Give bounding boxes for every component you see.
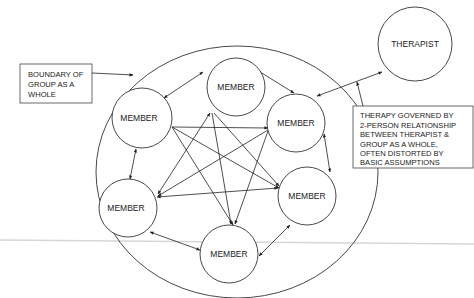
member-label: MEMBER	[217, 82, 254, 92]
group-diagram: BOUNDARY OF GROUP AS A WHOLE THERAPIST T…	[0, 0, 474, 298]
therapy-label-line-1: THERAPY GOVERNED BY	[360, 111, 454, 120]
therapist-node: THERAPIST	[378, 7, 452, 81]
member-node-right-upper: MEMBER	[267, 94, 325, 152]
member-node-left-upper: MEMBER	[112, 88, 172, 148]
member-label: MEMBER	[107, 203, 144, 213]
boundary-label-box: BOUNDARY OF GROUP AS A WHOLE	[20, 64, 92, 103]
member-node-bottom: MEMBER	[200, 225, 258, 283]
therapist-label: THERAPIST	[391, 39, 439, 49]
boundary-label-line-3: WHOLE	[28, 90, 56, 99]
therapy-label-line-4: GROUP AS A WHOLE,	[360, 140, 438, 149]
member-label: MEMBER	[120, 113, 157, 123]
member-label: MEMBER	[288, 191, 325, 201]
therapy-pointer-arrow	[357, 82, 363, 106]
boundary-pointer-arrow	[92, 73, 133, 75]
therapy-label-line-2: 2-PERSON RELATIONSHIP	[360, 121, 456, 130]
therapy-label-line-3: BETWEEN THERAPIST &	[360, 130, 449, 139]
therapy-label-box: THERAPY GOVERNED BY 2-PERSON RELATIONSHI…	[353, 106, 473, 168]
boundary-label-line-1: BOUNDARY OF	[28, 70, 84, 79]
member-node-top: MEMBER	[207, 58, 265, 116]
therapy-label-line-5: OFTEN DISTORTED BY	[360, 149, 444, 158]
boundary-label-line-2: GROUP AS A	[28, 80, 75, 89]
member-label: MEMBER	[210, 249, 247, 259]
therapist-group-arrow	[317, 72, 382, 96]
therapy-label-line-6: BASIC ASSUMPTIONS	[360, 158, 440, 167]
cross-connections	[157, 113, 279, 225]
member-node-right-lower: MEMBER	[278, 167, 336, 225]
member-label: MEMBER	[277, 118, 314, 128]
member-node-left-lower: MEMBER	[99, 179, 157, 237]
